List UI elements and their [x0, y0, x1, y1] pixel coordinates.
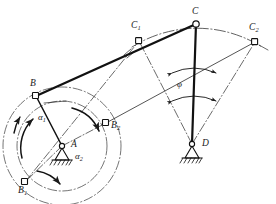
alpha2-arc-arrow — [37, 171, 60, 184]
link-rocker-C2D — [192, 42, 255, 144]
alpha2-arc-arrow-upper — [72, 108, 99, 131]
label-point-B2: B2 — [111, 121, 120, 131]
alpha1-arc-outer — [14, 117, 20, 133]
label-point-D: D — [202, 139, 209, 149]
label-angle-alpha1: α1 — [38, 113, 46, 122]
ground-pivot-D — [180, 146, 202, 163]
stub-c2 — [259, 45, 268, 50]
label-angle-alpha2: α2 — [75, 152, 83, 161]
link-coupler-BC — [36, 24, 196, 96]
joint-A — [59, 143, 64, 148]
label-point-C: C — [192, 7, 198, 17]
link-rocker-C1D — [139, 41, 192, 144]
link-crank-AB2 — [62, 123, 106, 146]
joint-B2 — [103, 120, 109, 126]
label-point-C1: C1 — [131, 21, 141, 31]
label-point-B: B — [30, 79, 36, 89]
kinematic-diagram: A B B1 B2 C C1 C2 D α1 α2 φ — [0, 0, 276, 204]
ground-pivot-A — [50, 148, 72, 165]
joint-D — [189, 141, 194, 146]
link-rocker-CD — [192, 24, 196, 144]
joint-B — [33, 93, 39, 99]
joint-C1 — [136, 38, 142, 44]
joint-C2 — [252, 39, 258, 45]
joint-B1 — [22, 179, 28, 185]
label-point-A: A — [71, 140, 77, 150]
label-angle-phi: φ — [177, 80, 182, 89]
label-point-C2: C2 — [249, 23, 259, 33]
joint-C — [193, 21, 199, 27]
link-crank-AB1 — [25, 146, 62, 182]
label-point-B1: B1 — [18, 186, 27, 196]
